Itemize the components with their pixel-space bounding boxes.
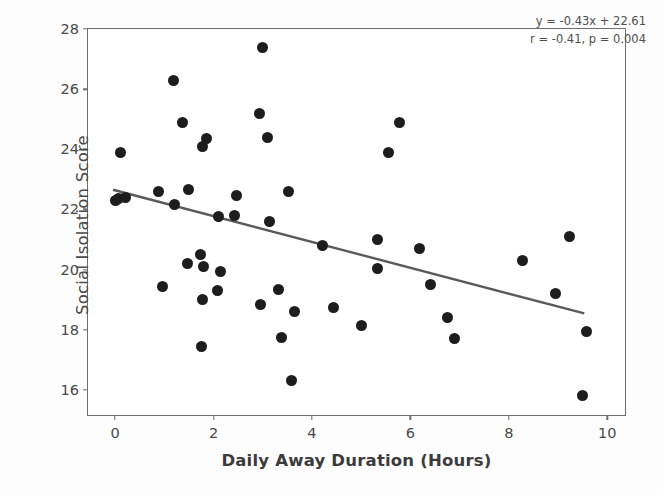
x-tick-label: 10 <box>598 425 616 441</box>
annotation-equation: y = -0.43x + 22.61 <box>530 13 646 31</box>
data-point <box>168 75 179 86</box>
data-point <box>449 333 460 344</box>
data-point <box>581 326 592 337</box>
data-point <box>195 249 206 260</box>
data-point <box>157 281 168 292</box>
y-tick-mark <box>83 88 88 89</box>
data-point <box>372 234 383 245</box>
data-point <box>317 240 328 251</box>
x-tick-label: 4 <box>307 425 316 441</box>
data-point <box>153 186 164 197</box>
data-point <box>328 302 339 313</box>
scatter-plot-figure: 16182022242628 0246810 Social Isolation … <box>0 0 663 495</box>
data-point <box>254 108 265 119</box>
data-point <box>517 255 528 266</box>
data-point <box>213 211 224 222</box>
data-point <box>215 266 226 277</box>
x-tick-mark <box>311 415 312 420</box>
data-point <box>198 261 209 272</box>
data-point <box>577 390 588 401</box>
data-point <box>183 184 194 195</box>
x-tick-mark <box>607 415 608 420</box>
data-point <box>212 285 223 296</box>
data-points-layer <box>88 29 625 415</box>
data-point <box>442 312 453 323</box>
data-point <box>257 42 268 53</box>
data-point <box>229 210 240 221</box>
data-point <box>231 190 242 201</box>
x-tick-mark <box>213 415 214 420</box>
data-point <box>262 132 273 143</box>
data-point <box>182 258 193 269</box>
data-point <box>201 133 212 144</box>
y-axis-label: Social Isolation Score <box>73 95 92 355</box>
x-tick-label: 0 <box>110 425 119 441</box>
x-tick-label: 8 <box>504 425 513 441</box>
data-point <box>372 263 383 274</box>
data-point <box>255 299 266 310</box>
data-point <box>196 341 207 352</box>
x-tick-label: 2 <box>209 425 218 441</box>
data-point <box>425 279 436 290</box>
data-point <box>273 284 284 295</box>
data-point <box>356 320 367 331</box>
data-point <box>264 216 275 227</box>
annotation-stats: r = -0.41, p = 0.004 <box>530 31 646 49</box>
data-point <box>286 375 297 386</box>
data-point <box>169 199 180 210</box>
data-point <box>276 332 287 343</box>
data-point <box>177 117 188 128</box>
data-point <box>115 147 126 158</box>
data-point <box>383 147 394 158</box>
data-point <box>564 231 575 242</box>
x-tick-label: 6 <box>406 425 415 441</box>
data-point <box>414 243 425 254</box>
plot-area: 16182022242628 0246810 Social Isolation … <box>87 28 626 416</box>
data-point <box>197 294 208 305</box>
data-point <box>283 186 294 197</box>
x-tick-mark <box>508 415 509 420</box>
y-tick-mark <box>83 28 88 29</box>
data-point <box>120 192 131 203</box>
x-axis-label: Daily Away Duration (Hours) <box>88 451 625 470</box>
y-tick-mark <box>83 389 88 390</box>
x-tick-mark <box>114 415 115 420</box>
x-tick-mark <box>410 415 411 420</box>
data-point <box>550 288 561 299</box>
y-tick-label: 28 <box>61 21 79 37</box>
data-point <box>394 117 405 128</box>
regression-annotation: y = -0.43x + 22.61 r = -0.41, p = 0.004 <box>530 13 646 49</box>
data-point <box>289 306 300 317</box>
y-tick-label: 16 <box>61 382 79 398</box>
